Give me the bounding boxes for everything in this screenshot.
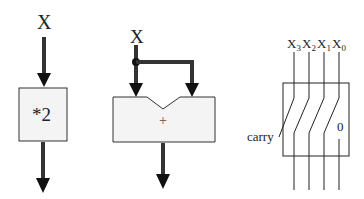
bit-label-x0: X0 [332, 37, 346, 53]
right-arrow-head [185, 83, 199, 97]
branch-line [136, 62, 192, 85]
zero-label: 0 [337, 120, 344, 133]
carry-label: carry [247, 130, 274, 143]
adder-output-head [156, 174, 170, 189]
add-input-label: X [130, 27, 144, 46]
add-op-label: + [159, 114, 167, 128]
diagram-canvas [0, 0, 364, 199]
multiply-input-label: X [37, 12, 51, 32]
left-arrow-head [129, 83, 143, 97]
bit-label-x2: X2 [302, 37, 316, 53]
bit-label-x3: X3 [287, 37, 301, 53]
bit-label-x1: X1 [317, 37, 331, 53]
multiply-op-label: *2 [32, 105, 51, 124]
output-arrow-head [36, 178, 50, 193]
input-arrow-head [37, 73, 51, 87]
